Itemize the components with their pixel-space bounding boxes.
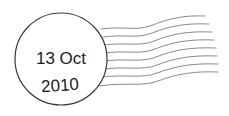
postmark-cancellation: 13 Oct 2010: [0, 0, 229, 116]
wavy-cancellation-lines-icon: [99, 16, 218, 86]
postmark-date-year: 2010: [41, 75, 80, 97]
postmark-date-day-month: 13 Oct: [36, 49, 86, 68]
